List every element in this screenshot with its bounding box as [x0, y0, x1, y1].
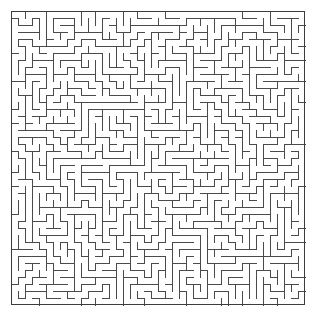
maze-drawing [0, 0, 316, 321]
maze-canvas [0, 0, 316, 321]
maze-page [0, 0, 316, 321]
